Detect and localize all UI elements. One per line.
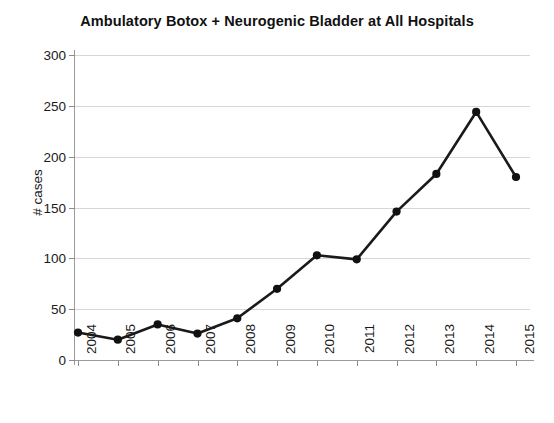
x-tick-label-2014: 2014 (482, 324, 497, 370)
x-tick-mark-2009 (277, 361, 278, 366)
x-tick-mark-2004 (78, 361, 79, 366)
x-tick-label-2009: 2009 (283, 324, 298, 370)
data-point-2010 (313, 251, 321, 259)
x-tick-mark-2011 (357, 361, 358, 366)
data-point-2007 (193, 329, 201, 337)
chart-container: Ambulatory Botox + Neurogenic Bladder at… (0, 0, 554, 423)
series-markers (74, 108, 520, 344)
x-tick-label-2005: 2005 (123, 324, 138, 370)
x-tick-label-2015: 2015 (522, 324, 537, 370)
x-tick-label-2013: 2013 (442, 324, 457, 370)
data-point-2004 (74, 328, 82, 336)
data-point-2012 (392, 207, 400, 215)
x-tick-mark-2007 (198, 361, 199, 366)
data-point-2009 (273, 285, 281, 293)
data-point-2011 (353, 255, 361, 263)
data-point-2005 (114, 336, 122, 344)
x-tick-label-2004: 2004 (84, 324, 99, 370)
x-tick-mark-2013 (436, 361, 437, 366)
x-tick-label-2011: 2011 (362, 324, 377, 370)
x-tick-mark-2006 (158, 361, 159, 366)
x-tick-mark-2014 (476, 361, 477, 366)
x-tick-label-2006: 2006 (163, 324, 178, 370)
x-tick-mark-2005 (118, 361, 119, 366)
x-tick-label-2012: 2012 (402, 324, 417, 370)
x-tick-label-2008: 2008 (243, 324, 258, 370)
x-tick-mark-2012 (397, 361, 398, 366)
x-tick-mark-2015 (516, 361, 517, 366)
x-tick-mark-2008 (237, 361, 238, 366)
data-point-2013 (432, 170, 440, 178)
x-tick-mark-2010 (317, 361, 318, 366)
x-tick-label-2010: 2010 (322, 324, 337, 370)
x-tick-label-2007: 2007 (203, 324, 218, 370)
data-point-2008 (233, 314, 241, 322)
data-point-2006 (154, 320, 162, 328)
series-polyline (78, 112, 516, 340)
data-point-2014 (472, 108, 480, 116)
data-point-2015 (512, 173, 520, 181)
